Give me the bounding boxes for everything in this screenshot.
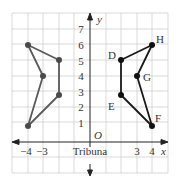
point-e: [118, 92, 124, 98]
y-tick-6: 6: [78, 39, 84, 51]
y-tick-7: 7: [78, 23, 84, 35]
left-point-neg4-6: [25, 42, 31, 48]
origin-label: O: [94, 129, 102, 141]
left-point-neg4-1: [25, 123, 31, 129]
left-shape: [25, 42, 62, 129]
label-h: H: [156, 33, 164, 45]
x-tick-3: 3: [134, 145, 140, 157]
y-tick-labels: 7 6 5 4 3 2 1: [78, 23, 84, 129]
x-tick-neg4: −4: [20, 145, 32, 157]
left-point-neg3-4: [40, 73, 46, 79]
y-tick-1: 1: [78, 117, 84, 129]
y-tick-3: 3: [78, 86, 84, 98]
y-tick-4: 4: [78, 70, 84, 82]
label-d: D: [108, 49, 116, 61]
label-g: G: [143, 71, 151, 83]
left-point-neg2-3: [56, 92, 62, 98]
label-e: E: [108, 100, 115, 112]
point-h: [149, 42, 155, 48]
y-tick-5: 5: [78, 55, 84, 67]
point-d: [118, 57, 124, 63]
x-tick-4: 4: [149, 145, 155, 157]
coordinate-diagram: 7 6 5 4 3 2 1 −4 −3 3 4 y x O Tribuna H: [0, 0, 178, 183]
left-point-neg2-5: [56, 57, 62, 63]
right-shape: [118, 42, 155, 129]
y-tick-2: 2: [78, 101, 84, 113]
point-g: [134, 73, 140, 79]
label-f: F: [155, 112, 161, 124]
tribuna-caption: Tribuna: [73, 145, 108, 157]
x-tick-neg3: −3: [36, 145, 48, 157]
x-axis-label: x: [160, 145, 166, 157]
y-axis-label: y: [96, 13, 102, 25]
